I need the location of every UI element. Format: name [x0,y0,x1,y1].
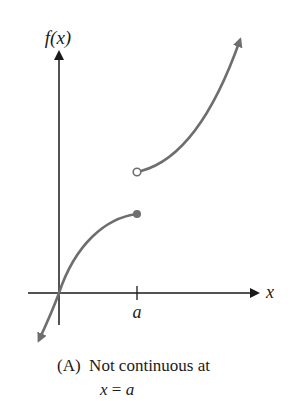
caption-var-x: x [100,380,108,399]
lower-branch-curve [39,214,137,340]
closed-point [133,210,141,218]
caption-text: Not continuous at [89,356,210,375]
y-axis-label: f(x) [45,27,71,49]
tick-label-a: a [133,302,142,322]
caption-marker: (A) [57,356,81,375]
x-axis-label: x [265,282,274,302]
caption-line-1: (A) Not continuous at [57,356,210,376]
open-point [133,168,141,176]
graph-diagram: f(x) x a [0,0,307,401]
caption-line-2: x = a [100,380,134,400]
caption-equals: = [108,380,126,399]
caption-var-a: a [126,380,135,399]
upper-branch-curve [141,40,240,171]
